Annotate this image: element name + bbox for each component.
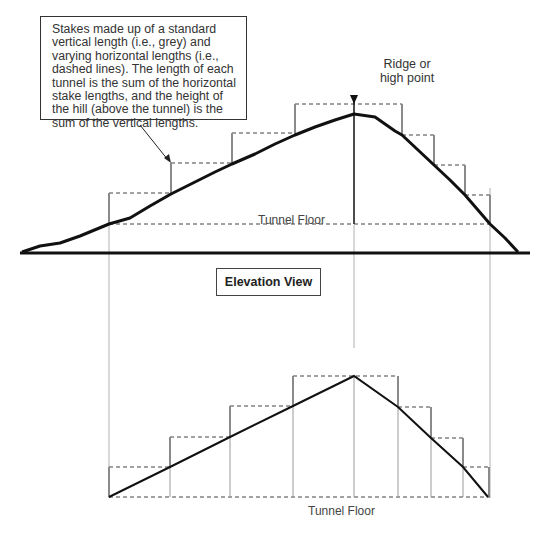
ridge-label: Ridge or high point xyxy=(372,57,442,85)
ridge-arrow-icon xyxy=(350,95,358,104)
tunnel-floor-label-top: Tunnel Floor xyxy=(258,213,325,227)
tunnel-floor-label-bottom: Tunnel Floor xyxy=(308,504,375,518)
stakes-callout: Stakes made up of a standard vertical le… xyxy=(40,16,247,120)
callout-arrow-icon xyxy=(164,154,171,163)
stake-profile-bottom xyxy=(109,376,490,497)
guide-lines xyxy=(109,188,490,498)
elevation-view-label: Elevation View xyxy=(216,268,321,296)
